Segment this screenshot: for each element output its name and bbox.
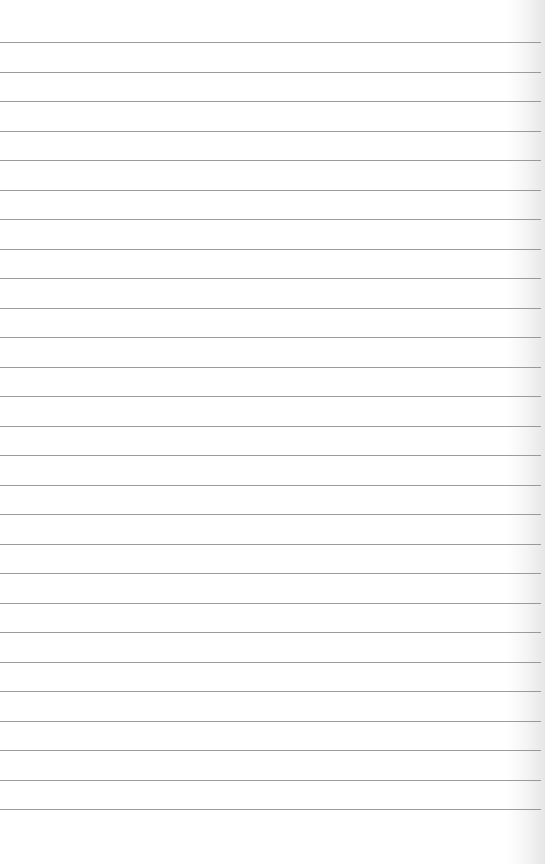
- ruled-line: [0, 160, 541, 161]
- ruled-line: [0, 721, 541, 722]
- ruled-line: [0, 249, 541, 250]
- ruled-line: [0, 809, 541, 810]
- ruled-line: [0, 455, 541, 456]
- ruled-line: [0, 396, 541, 397]
- ruled-line: [0, 514, 541, 515]
- ruled-line: [0, 308, 541, 309]
- ruled-line: [0, 278, 541, 279]
- ruled-line: [0, 632, 541, 633]
- lined-paper-page: [0, 0, 545, 864]
- ruled-line: [0, 42, 541, 43]
- ruled-line: [0, 780, 541, 781]
- ruled-line: [0, 691, 541, 692]
- ruled-line: [0, 219, 541, 220]
- ruled-line: [0, 750, 541, 751]
- ruled-line: [0, 101, 541, 102]
- ruled-line: [0, 72, 541, 73]
- ruled-line: [0, 190, 541, 191]
- ruled-line: [0, 367, 541, 368]
- ruled-line: [0, 573, 541, 574]
- ruled-line: [0, 544, 541, 545]
- ruled-line: [0, 603, 541, 604]
- ruled-line: [0, 337, 541, 338]
- ruled-line: [0, 485, 541, 486]
- ruled-line: [0, 662, 541, 663]
- ruled-line: [0, 426, 541, 427]
- ruled-line: [0, 131, 541, 132]
